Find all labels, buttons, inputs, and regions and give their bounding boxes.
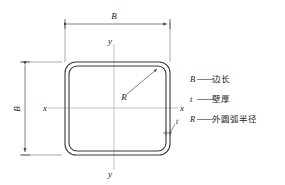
outer-contour: [65, 62, 170, 155]
legend-symbol: R: [190, 114, 197, 124]
legend-separator: ——: [197, 74, 212, 84]
radius-leader-group: R: [120, 69, 157, 102]
y-axis-top-label: y: [107, 36, 112, 46]
left-dimension-label: B: [12, 106, 22, 112]
legend-separator: ——: [197, 94, 212, 104]
legend: B —— 边长 t —— 壁厚 R —— 外圆弧半径: [190, 72, 285, 132]
top-dimension-label: B: [111, 11, 117, 21]
legend-item-outer-arc-radius: R —— 外圆弧半径: [190, 112, 285, 132]
legend-separator: ——: [197, 114, 212, 124]
top-dimension-group: B: [65, 11, 170, 62]
legend-symbol: B: [190, 74, 197, 84]
thickness-label: t: [176, 117, 179, 126]
legend-item-wall-thickness: t —— 壁厚: [190, 92, 285, 112]
technical-drawing: B B y y x x R: [0, 0, 285, 185]
legend-symbol: t: [190, 94, 197, 104]
center-axes-group: y y x x: [42, 36, 184, 179]
thickness-marker-group: t: [163, 117, 179, 136]
thickness-leader-line: [170, 124, 175, 133]
legend-description: 边长: [212, 72, 230, 84]
legend-description: 壁厚: [212, 92, 230, 104]
legend-description: 外圆弧半径: [212, 112, 257, 124]
square-tube-section: [65, 62, 170, 155]
inner-contour: [69, 66, 166, 151]
radius-leader-line: [127, 69, 157, 94]
x-axis-right-label: x: [179, 103, 184, 113]
left-dimension-group: B: [12, 62, 62, 155]
legend-item-side-length: B —— 边长: [190, 72, 285, 92]
radius-label: R: [120, 92, 127, 102]
x-axis-left-label: x: [42, 103, 47, 113]
y-axis-bottom-label: y: [107, 169, 112, 179]
